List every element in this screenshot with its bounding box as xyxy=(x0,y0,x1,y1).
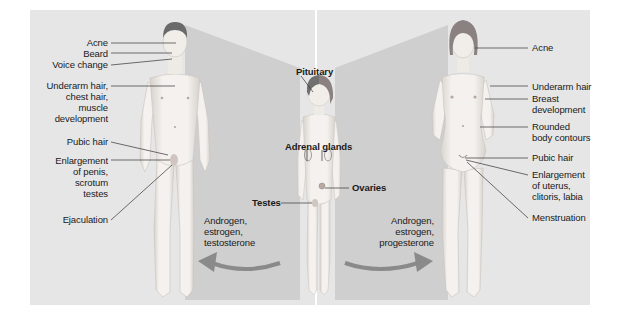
label-testes: Testes xyxy=(252,197,281,208)
label-line: Enlargement xyxy=(532,169,585,180)
hormone-line: testosterone xyxy=(204,237,255,248)
label-line: muscle xyxy=(47,102,108,113)
hormone-line: Androgen, xyxy=(379,215,434,226)
label-line: of uterus, xyxy=(532,180,585,191)
label-line: body contours xyxy=(532,132,590,143)
label-female-hormones: Androgen, estrogen, progesterone xyxy=(379,215,434,248)
label-line: of penis, xyxy=(55,166,108,177)
label-line: Breast xyxy=(532,93,585,104)
label-female-enlargement: Enlargement of uterus, clitoris, labia xyxy=(532,169,585,202)
hormone-line: estrogen, xyxy=(379,226,434,237)
label-female-rounded-body: Rounded body contours xyxy=(532,121,590,143)
label-female-underarm-hair: Underarm hair xyxy=(532,81,591,92)
label-female-breast-development: Breast development xyxy=(532,93,585,115)
beam-right xyxy=(335,25,448,300)
label-female-menstruation: Menstruation xyxy=(532,212,586,223)
label-male-beard: Beard xyxy=(83,48,108,59)
hormone-line: progesterone xyxy=(379,237,434,248)
label-ovaries: Ovaries xyxy=(352,182,386,193)
label-male-hormones: Androgen, estrogen, testosterone xyxy=(204,215,255,248)
hormone-line: Androgen, xyxy=(204,215,255,226)
label-line: clitoris, labia xyxy=(532,191,585,202)
label-male-acne: Acne xyxy=(87,37,108,48)
label-line: scrotum xyxy=(55,177,108,188)
label-line: development xyxy=(47,113,108,124)
label-pituitary: Pituitary xyxy=(296,66,333,77)
label-male-ejaculation: Ejaculation xyxy=(63,214,108,225)
label-female-pubic-hair: Pubic hair xyxy=(532,152,573,163)
hormone-line: estrogen, xyxy=(204,226,255,237)
label-line: Rounded xyxy=(532,121,590,132)
label-line: Underarm hair, xyxy=(47,80,108,91)
label-male-pubic-hair: Pubic hair xyxy=(67,136,108,147)
label-male-enlargement: Enlargement of penis, scrotum testes xyxy=(55,155,108,199)
label-line: Enlargement xyxy=(55,155,108,166)
label-line: development xyxy=(532,104,585,115)
label-male-voice-change: Voice change xyxy=(52,59,108,70)
label-female-acne: Acne xyxy=(532,42,553,53)
puberty-diagram: Acne Beard Voice change Underarm hair, c… xyxy=(0,0,624,320)
label-adrenal-glands: Adrenal glands xyxy=(285,141,352,152)
label-line: testes xyxy=(55,188,108,199)
label-male-underarm-chest-muscle: Underarm hair, chest hair, muscle develo… xyxy=(47,80,108,124)
label-line: chest hair, xyxy=(47,91,108,102)
